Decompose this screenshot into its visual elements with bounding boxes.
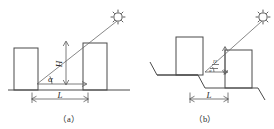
label-spacing-a: L [56,90,62,100]
label-height-b: H [212,59,217,64]
sun-disc-a [114,13,122,21]
building-right-b [225,50,252,88]
sun-disc-b [259,13,267,21]
label-height-a: H [54,60,64,68]
diagram-canvas: H α L [0,0,274,129]
angle-arc-b [213,67,215,72]
building-left-a [14,48,38,90]
building-left-b [176,37,203,75]
panel-b-group: L H α [150,10,270,103]
label-angle-b: α [209,68,212,73]
sun-icon [111,10,126,25]
figure-root: H α L [0,0,274,129]
sun-icon [256,10,271,25]
label-spacing-b: L [205,90,211,100]
label-angle-a: α [48,74,53,84]
panel-a-group: H α L [8,10,130,103]
building-right-a [83,43,107,90]
